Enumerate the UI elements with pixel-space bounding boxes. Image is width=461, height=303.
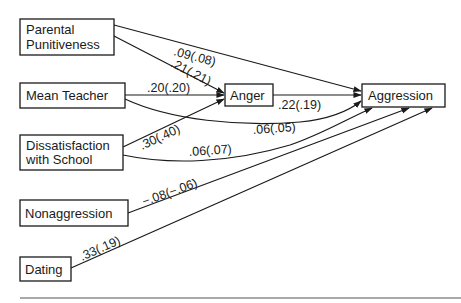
node-mean-teacher: Mean Teacher xyxy=(20,83,125,108)
node-label-line: Anger xyxy=(230,88,265,103)
coef-dating-aggression: .33(.19) xyxy=(78,233,123,263)
path-diagram: .09(.08) .21(.21) .20(.20) .06(.05) .30(… xyxy=(0,0,461,303)
coef-teacher-anger: .20(.20) xyxy=(147,81,190,95)
node-label-line: Mean Teacher xyxy=(26,88,109,103)
coef-dissatisfaction-anger: .30(.40) xyxy=(137,122,182,153)
edge-dating-aggression xyxy=(71,108,432,268)
node-dating: Dating xyxy=(20,257,71,281)
node-label-line: Nonaggression xyxy=(25,206,112,221)
node-anger: Anger xyxy=(225,84,273,106)
node-label-line: Aggression xyxy=(368,88,433,103)
edges xyxy=(71,25,432,268)
node-label-line: Dissatisfaction xyxy=(26,138,110,153)
node-aggression: Aggression xyxy=(362,84,445,107)
coef-dissatisfaction-aggression: .06(.07) xyxy=(188,142,232,159)
node-label-line: Parental xyxy=(26,22,75,37)
node-label-line: Dating xyxy=(25,262,63,277)
node-label-line: with School xyxy=(25,152,93,167)
node-dissatisfaction-with-school: Dissatisfaction with School xyxy=(20,135,123,170)
node-nonaggression: Nonaggression xyxy=(20,200,128,226)
node-parental-punitiveness: Parental Punitiveness xyxy=(20,19,114,55)
coef-teacher-aggression: .06(.05) xyxy=(252,120,296,137)
node-label-line: Punitiveness xyxy=(26,37,100,52)
coef-nonaggression-aggression: −.08(−.06) xyxy=(140,176,199,209)
coef-anger-aggression: .22(.19) xyxy=(278,98,321,112)
